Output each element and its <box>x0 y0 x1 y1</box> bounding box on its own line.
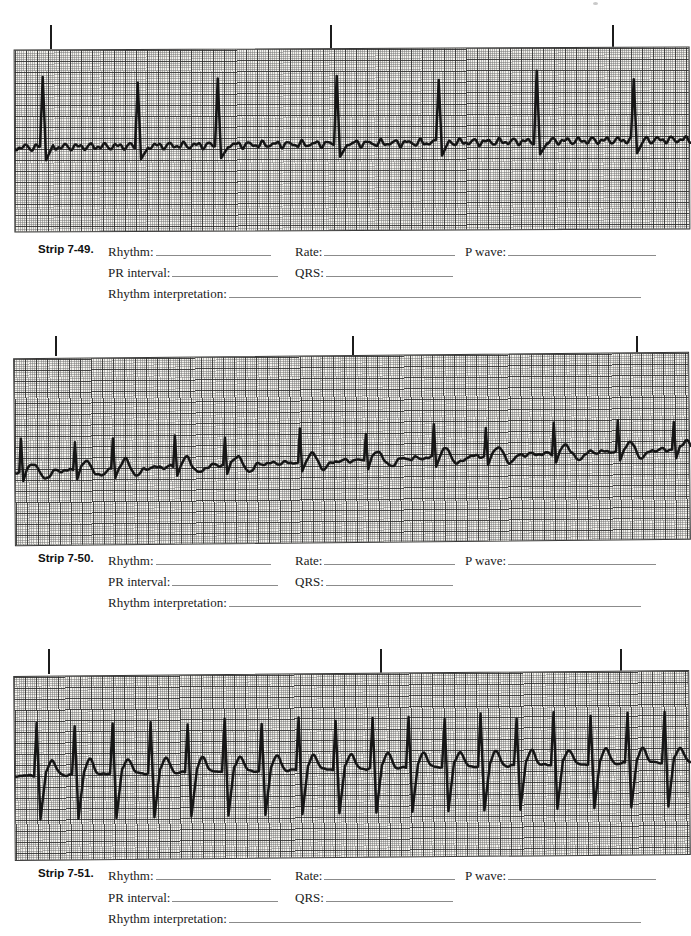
fields-row: Rhythm interpretation: <box>0 593 691 613</box>
qrs-field: QRS: <box>295 572 453 590</box>
rate-label: Rate: <box>295 868 322 883</box>
strip-number-label: Strip 7-50. <box>38 552 94 564</box>
interpretation-field: Rhythm interpretation: <box>108 909 641 927</box>
rate-field: Rate: <box>295 866 455 884</box>
time-marker-tick <box>55 336 57 356</box>
time-marker-tick <box>380 649 382 674</box>
fields-row: Strip 7-50. Rhythm: Rate: P wave: <box>0 551 691 571</box>
interpretation-blank <box>229 909 641 923</box>
p-wave-blank <box>508 866 656 880</box>
rate-field: Rate: <box>295 551 455 569</box>
fields-row: Strip 7-49. Rhythm: Rate: P wave: <box>0 242 691 262</box>
rhythm-field: Rhythm: <box>108 242 271 260</box>
fields-row: Strip 7-51. Rhythm: Rate: P wave: <box>0 866 691 886</box>
p-wave-label: P wave: <box>465 868 506 883</box>
ecg-strip-7-50 <box>13 352 691 546</box>
pr-interval-field: PR interval: <box>108 263 278 281</box>
p-wave-field: P wave: <box>465 866 656 884</box>
rate-label: Rate: <box>295 553 322 568</box>
scan-artifact-dot <box>593 2 598 5</box>
p-wave-label: P wave: <box>465 244 506 259</box>
qrs-label: QRS: <box>295 890 324 905</box>
qrs-blank <box>326 572 453 586</box>
qrs-blank <box>326 263 453 277</box>
ecg-waveform-7-51 <box>14 671 691 862</box>
rhythm-field: Rhythm: <box>108 866 271 884</box>
interpretation-label: Rhythm interpretation: <box>108 286 227 301</box>
rhythm-label: Rhythm: <box>108 553 154 568</box>
fields-row: Rhythm interpretation: <box>0 909 691 929</box>
fields-row: PR interval: QRS: <box>0 572 691 592</box>
rate-blank <box>324 242 455 256</box>
ecg-strip-7-51 <box>13 670 691 861</box>
p-wave-field: P wave: <box>465 551 656 569</box>
qrs-label: QRS: <box>295 574 324 589</box>
pr-interval-label: PR interval: <box>108 265 170 280</box>
ecg-waveform-7-49 <box>15 48 691 234</box>
time-marker-tick <box>330 25 332 49</box>
interpretation-blank <box>229 593 641 607</box>
pr-interval-field: PR interval: <box>108 572 278 590</box>
rate-blank <box>324 551 455 565</box>
p-wave-blank <box>508 242 656 256</box>
interpretation-field: Rhythm interpretation: <box>108 593 641 611</box>
time-marker-tick <box>612 25 614 49</box>
rhythm-label: Rhythm: <box>108 868 154 883</box>
rate-field: Rate: <box>295 242 455 260</box>
time-marker-tick <box>352 336 354 356</box>
pr-interval-blank <box>172 572 278 586</box>
pr-interval-blank <box>172 263 278 277</box>
fields-row: PR interval: QRS: <box>0 263 691 283</box>
interpretation-label: Rhythm interpretation: <box>108 595 227 610</box>
fields-row: PR interval: QRS: <box>0 888 691 908</box>
pr-interval-label: PR interval: <box>108 890 170 905</box>
qrs-field: QRS: <box>295 263 453 281</box>
ecg-workbook-page: Strip 7-49. Rhythm: Rate: P wave: PR int… <box>0 0 691 936</box>
rhythm-label: Rhythm: <box>108 244 154 259</box>
pr-interval-blank <box>172 888 278 902</box>
p-wave-field: P wave: <box>465 242 656 260</box>
rate-blank <box>324 866 455 880</box>
interpretation-blank <box>229 284 641 298</box>
ecg-waveform-7-50 <box>14 353 691 547</box>
pr-interval-label: PR interval: <box>108 574 170 589</box>
qrs-field: QRS: <box>295 888 453 906</box>
three-second-markers-strip-7-49 <box>0 25 691 49</box>
time-marker-tick <box>48 649 50 674</box>
time-marker-tick <box>50 25 52 49</box>
interpretation-field: Rhythm interpretation: <box>108 284 641 302</box>
qrs-label: QRS: <box>295 265 324 280</box>
fields-row: Rhythm interpretation: <box>0 284 691 304</box>
p-wave-label: P wave: <box>465 553 506 568</box>
rhythm-blank <box>156 242 271 256</box>
rate-label: Rate: <box>295 244 322 259</box>
strip-number-label: Strip 7-51. <box>38 867 94 879</box>
interpretation-label: Rhythm interpretation: <box>108 911 227 926</box>
ecg-strip-7-49 <box>14 47 691 233</box>
rhythm-blank <box>156 551 271 565</box>
qrs-blank <box>326 888 453 902</box>
pr-interval-field: PR interval: <box>108 888 278 906</box>
strip-number-label: Strip 7-49. <box>38 243 94 255</box>
p-wave-blank <box>508 551 656 565</box>
rhythm-field: Rhythm: <box>108 551 271 569</box>
rhythm-blank <box>156 866 271 880</box>
